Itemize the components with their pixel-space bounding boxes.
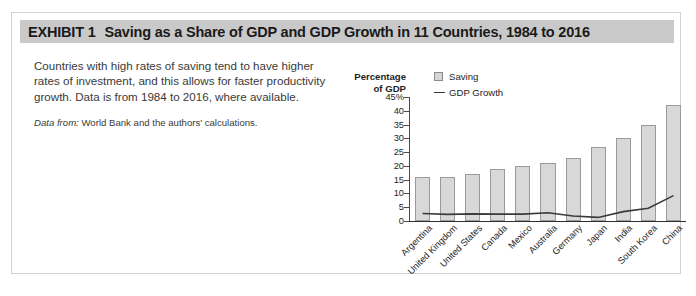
y-axis-tick <box>404 207 409 208</box>
x-axis-tick-label: India <box>613 223 634 244</box>
y-axis-tick-label: 30 <box>394 133 404 143</box>
exhibit-number: EXHIBIT 1 <box>28 24 96 40</box>
y-axis-tick-label: 25 <box>394 147 404 157</box>
y-axis-tick <box>404 138 409 139</box>
chart: Percentage of GDP Saving GDP Growth 45%4… <box>342 61 692 276</box>
gdp-growth-polyline <box>423 196 674 218</box>
y-axis-tick <box>404 193 409 194</box>
legend-item-saving: Saving <box>434 70 503 83</box>
y-axis-tick <box>404 125 409 126</box>
y-axis-labels: 45%4035302520151050 <box>342 97 404 229</box>
y-axis-tick <box>404 221 409 222</box>
y-axis-tick <box>404 152 409 153</box>
y-axis-tick-label: 40 <box>394 106 404 116</box>
legend-label-saving: Saving <box>449 71 478 82</box>
y-axis-tick-label: 45% <box>385 92 404 102</box>
legend-line-icon <box>434 92 445 93</box>
line-series-gdp-growth <box>410 97 686 221</box>
x-axis-tick-label: Canada <box>479 223 509 253</box>
y-axis-tick <box>404 166 409 167</box>
y-axis-tick <box>404 97 409 98</box>
x-axis-labels: ArgentinaUnited KingdomUnited StatesCana… <box>410 223 696 296</box>
y-axis-title: Percentage of GDP <box>344 71 406 94</box>
y-axis-title-line1: Percentage <box>344 71 406 83</box>
source-text: World Bank and the authors' calculations… <box>81 117 257 128</box>
exhibit-title: Saving as a Share of GDP and GDP Growth … <box>105 24 590 40</box>
description-text: Countries with high rates of saving tend… <box>34 58 334 104</box>
description-block: Countries with high rates of saving tend… <box>34 58 334 128</box>
source-note: Data from: World Bank and the authors' c… <box>34 117 334 128</box>
exhibit-frame: EXHIBIT 1 Saving as a Share of GDP and G… <box>11 12 681 274</box>
y-axis-tick <box>404 111 409 112</box>
x-axis-tick-label: China <box>660 223 684 247</box>
x-axis-tick-label: Japan <box>584 223 609 248</box>
legend-swatch-icon <box>434 72 443 81</box>
y-axis-tick-label: 10 <box>394 188 404 198</box>
y-axis-tick-label: 35 <box>394 120 404 130</box>
plot-area: 45%4035302520151050 ArgentinaUnited King… <box>342 97 692 229</box>
y-axis-tick <box>404 180 409 181</box>
source-label: Data from: <box>34 117 79 128</box>
y-axis-tick-label: 20 <box>394 161 404 171</box>
exhibit-header-band: EXHIBIT 1 Saving as a Share of GDP and G… <box>20 20 674 43</box>
y-axis-tick-label: 15 <box>394 175 404 185</box>
